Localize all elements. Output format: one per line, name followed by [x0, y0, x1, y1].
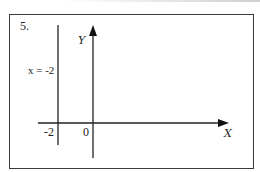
vertical-line-label: x = -2 — [28, 65, 54, 76]
x-axis-label: X — [224, 128, 232, 139]
x-axis-arrow-icon — [218, 119, 229, 127]
tick-label-neg-two: -2 — [44, 126, 54, 138]
coordinate-plot — [0, 0, 260, 172]
y-axis-label: Y — [78, 35, 85, 46]
problem-number: 5. — [20, 20, 29, 32]
tick-label-origin: 0 — [83, 126, 89, 138]
y-axis-arrow-icon — [89, 25, 97, 36]
